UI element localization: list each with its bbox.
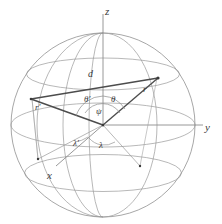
sphere-diagram-svg — [0, 0, 222, 224]
point-P-prime — [30, 98, 33, 101]
point-P — [156, 76, 159, 79]
angle-label-psi: ψ — [96, 107, 102, 116]
angle-label-theta-prime: θ′ — [84, 95, 90, 104]
point-r-projection — [139, 165, 141, 167]
axis-label-y: y — [205, 122, 210, 133]
angle-label-lambda: λ — [99, 141, 103, 150]
axis-label-x: x — [47, 170, 52, 181]
segment-label-d: d — [88, 69, 93, 79]
angle-label-theta: θ — [111, 95, 115, 104]
angle-arc-psi — [85, 104, 120, 113]
point-origin — [102, 124, 104, 126]
meridian-3 — [89, 33, 103, 217]
axis-label-z: z — [105, 6, 109, 17]
vector-label-r: r — [143, 85, 147, 94]
spherical-coordinate-figure: z y x r r′ d θ θ′ ψ λ λ′ — [0, 0, 222, 224]
angle-label-lambda-prime: λ′ — [73, 139, 79, 148]
vector-label-r-prime: r′ — [35, 103, 40, 112]
point-r-prime-projection — [37, 158, 39, 160]
